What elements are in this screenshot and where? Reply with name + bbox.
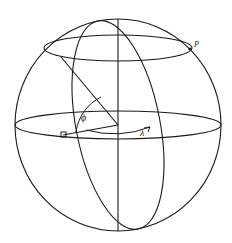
point-p-marker <box>188 47 191 50</box>
sphere-diagram-svg: P ϕ λ <box>0 0 232 243</box>
spherical-coordinates-figure: P ϕ λ <box>0 0 232 243</box>
radius-vector <box>61 57 118 125</box>
point-p-label: P <box>193 40 199 49</box>
lambda-angle-label: λ <box>139 127 145 138</box>
phi-angle-label: ϕ <box>81 112 86 123</box>
phi-angle-arc <box>76 97 101 132</box>
